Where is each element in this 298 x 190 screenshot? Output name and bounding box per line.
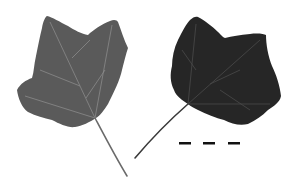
scale-mark-1 <box>179 142 191 145</box>
right-leaf-petiole <box>135 104 188 158</box>
leaves-illustration <box>0 0 298 190</box>
left-leaf-blade <box>17 16 128 127</box>
leaf-photo: two tulip tree leaves <box>0 0 298 190</box>
scale-marks <box>179 142 240 145</box>
scale-mark-3 <box>228 142 240 145</box>
left-leaf <box>17 16 128 176</box>
left-leaf-petiole <box>95 118 127 176</box>
scale-mark-2 <box>203 142 215 145</box>
right-leaf <box>135 17 281 158</box>
